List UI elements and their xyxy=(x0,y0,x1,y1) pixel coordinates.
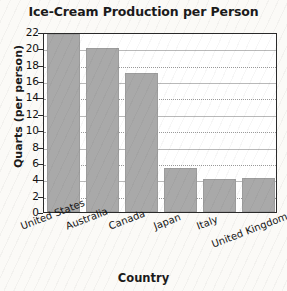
x-tick-label: Italy xyxy=(195,214,219,232)
y-tick-label: 2 xyxy=(0,190,39,202)
y-tick-label: 4 xyxy=(0,173,39,185)
bar xyxy=(164,168,197,212)
y-tick-label: 8 xyxy=(0,141,39,153)
y-tick-label: 10 xyxy=(0,124,39,136)
x-tick-label: Japan xyxy=(152,211,182,231)
plot-area xyxy=(43,33,277,213)
bar-series xyxy=(44,34,276,212)
y-tick-label: 12 xyxy=(0,108,39,120)
bar xyxy=(125,73,158,212)
bar xyxy=(86,48,119,212)
y-tick-label: 20 xyxy=(0,42,39,54)
bar xyxy=(242,178,275,212)
bar xyxy=(47,34,80,212)
bar xyxy=(203,179,236,212)
y-tick-label: 22 xyxy=(0,26,39,38)
y-tick-label: 16 xyxy=(0,75,39,87)
x-axis-title: Country xyxy=(0,271,287,285)
y-tick-label: 6 xyxy=(0,157,39,169)
x-tick-label: United Kingdom xyxy=(210,211,287,250)
y-tick-label: 18 xyxy=(0,59,39,71)
bar-chart: Ice-Cream Production per Person Quarts (… xyxy=(0,0,287,291)
y-tick-label: 14 xyxy=(0,91,39,103)
chart-title: Ice-Cream Production per Person xyxy=(0,4,287,19)
